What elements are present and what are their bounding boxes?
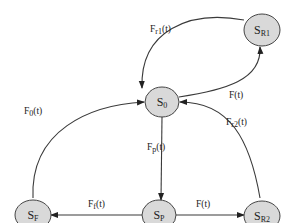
node-sp: SP [142,200,176,223]
edge-label-fr2: Fr2(t) [226,117,247,129]
edge-sr2-to-s0 [180,102,260,198]
edge-label-fr1: Fr1(t) [150,24,171,36]
edge-label-f-sp-sr2: F(t) [196,199,210,210]
node-s0: S0 [145,87,179,117]
node-sf: SF [15,200,51,223]
edge-s0-to-sr1 [179,47,260,97]
node-sr1: SR1 [244,14,280,46]
edge-s0-to-sp [161,117,162,200]
edge-label-f0: F0(t) [24,106,42,118]
edge-sf-to-s0 [33,102,144,198]
edge-label-fp: Fp(t) [147,142,165,154]
edge-label-ff: Ff(t) [88,199,105,211]
edge-label-f-s0-sr1: F(t) [229,90,243,101]
state-transition-diagram: Fr1(t) F(t) F0(t) Fr2(t) Fp(t) Ff(t) F(t… [0,0,288,223]
node-sr2: SR2 [244,201,280,223]
